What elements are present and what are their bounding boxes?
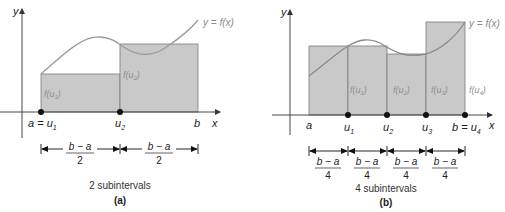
point-b-u4 <box>462 112 468 118</box>
rect-label-b-3: f(u3) <box>431 85 448 96</box>
point-label-a-u1: a = u1 <box>28 117 57 131</box>
rect-label-b-4: f(u4) <box>469 85 486 96</box>
fraction-a-2: b − a 2 <box>145 141 173 166</box>
caption-b: 4 subintervals <box>355 183 417 194</box>
svg-text:2: 2 <box>156 155 162 166</box>
point-a-u1 <box>38 109 44 115</box>
fraction-b-4: b − a 4 <box>432 156 458 181</box>
panel-letter-b: (b) <box>380 197 393 208</box>
fraction-b-3: b − a 4 <box>393 156 419 181</box>
fraction-b-1: b − a 4 <box>315 156 341 181</box>
y-axis-label-a: y <box>12 5 20 17</box>
svg-text:2: 2 <box>77 155 83 166</box>
svg-text:4: 4 <box>403 170 409 181</box>
rect-label-b-2: f(u2) <box>393 85 410 96</box>
point-label-a-b: b <box>194 117 200 129</box>
rect-b-4 <box>426 22 465 115</box>
curve-label-b: y = f(x) <box>468 18 500 29</box>
point-label-b-u4: b = u4 <box>452 121 481 135</box>
svg-text:b − a: b − a <box>356 156 379 167</box>
point-a-u2 <box>117 109 123 115</box>
rect-b-2 <box>348 46 387 115</box>
panel-letter-a: (a) <box>114 195 126 206</box>
panel-a: y x y = f(x) f(u1) f(u2) a = u1 u2 b b −… <box>0 5 234 206</box>
svg-text:4: 4 <box>442 170 448 181</box>
point-label-b-a: a <box>306 119 312 131</box>
interval-dimension-b <box>309 146 465 156</box>
point-b-u1 <box>345 112 351 118</box>
curve-label-a: y = f(x) <box>202 17 234 28</box>
svg-text:4: 4 <box>364 170 370 181</box>
rect-label-b-1: f(u1) <box>350 85 367 96</box>
svg-text:b − a: b − a <box>317 156 340 167</box>
point-label-b-u3: u3 <box>422 121 432 135</box>
fraction-a-1: b − a 2 <box>66 141 94 166</box>
svg-text:b − a: b − a <box>434 156 457 167</box>
rect-label-a-1: f(u1) <box>44 89 61 100</box>
point-label-a-u2: u2 <box>115 117 125 131</box>
x-axis-label-b: x <box>488 119 495 131</box>
point-label-b-u2: u2 <box>383 121 393 135</box>
interval-dimension-a <box>41 144 198 154</box>
panel-b: y x y = f(x) f(u1) f(u2) f(u3) f(u4) a u… <box>272 6 500 208</box>
point-b-u3 <box>423 112 429 118</box>
riemann-sum-diagram: y x y = f(x) f(u1) f(u2) a = u1 u2 b b −… <box>0 0 505 212</box>
svg-text:4: 4 <box>325 170 331 181</box>
y-axis-label-b: y <box>280 6 288 18</box>
svg-text:b − a: b − a <box>395 156 418 167</box>
point-label-b-u1: u1 <box>344 121 354 135</box>
svg-text:b − a: b − a <box>148 141 171 152</box>
rect-b-1 <box>309 46 348 115</box>
rect-label-a-2: f(u2) <box>123 70 140 81</box>
fraction-b-2: b − a 4 <box>354 156 380 181</box>
svg-text:b − a: b − a <box>69 141 92 152</box>
point-b-u2 <box>384 112 390 118</box>
x-axis-label-a: x <box>211 117 218 129</box>
caption-a: 2 subintervals <box>89 180 151 191</box>
